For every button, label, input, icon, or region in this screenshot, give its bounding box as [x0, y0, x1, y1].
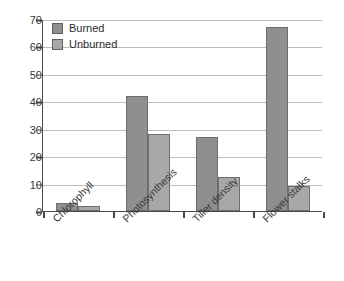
- legend-item: Burned: [52, 21, 134, 35]
- y-axis: 010203040506070: [0, 20, 42, 212]
- legend-swatch-icon: [52, 23, 63, 34]
- y-tick-label: 60: [8, 42, 42, 53]
- bar-chart: 010203040506070 ChlorophyllPhotosynthesi…: [0, 0, 344, 281]
- bar: [266, 27, 288, 211]
- y-tick-label: 20: [8, 152, 42, 163]
- x-axis-labels: ChlorophyllPhotosynthesisTiller densityF…: [42, 212, 344, 281]
- y-tick-label: 0: [8, 207, 42, 218]
- y-tick-label: 30: [8, 124, 42, 135]
- legend: BurnedUnburned: [52, 21, 134, 53]
- y-tick-label: 40: [8, 97, 42, 108]
- y-tick-label: 50: [8, 69, 42, 80]
- y-tick-label: 70: [8, 15, 42, 26]
- legend-label: Burned: [69, 22, 104, 34]
- bar: [78, 206, 100, 211]
- legend-item: Unburned: [52, 37, 134, 51]
- legend-label: Unburned: [69, 38, 117, 50]
- y-tick-label: 10: [8, 179, 42, 190]
- legend-swatch-icon: [52, 39, 63, 50]
